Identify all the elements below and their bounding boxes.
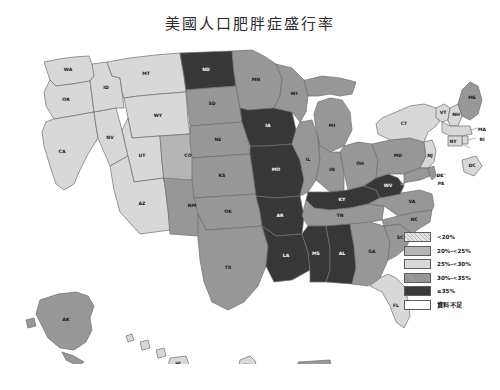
legend-swatch-25-30 — [404, 259, 431, 269]
legend-swatch-30-35 — [404, 273, 431, 283]
legend-label-25-30: 25%-<30% — [437, 261, 471, 267]
state-HI[interactable] — [126, 334, 190, 364]
legend-swatch-lt20 — [404, 232, 431, 242]
state-label-AL: AL — [339, 251, 346, 256]
legend-item-ge35[interactable]: ≥35% — [404, 285, 498, 297]
state-PR[interactable] — [298, 360, 332, 364]
state-label-PA: MD — [394, 153, 403, 158]
state-label-HI: HI — [175, 361, 181, 364]
state-label-RI: RI — [479, 137, 485, 142]
state-label-DE: PA — [438, 181, 445, 186]
state-label-OK: OK — [224, 209, 232, 214]
state-label-AK: AK — [62, 317, 70, 322]
state-label-NJ: NJ — [427, 153, 433, 158]
state-label-CO: CO — [184, 153, 191, 158]
state-label-LA: LA — [283, 253, 290, 258]
legend-item-30-35[interactable]: 30%-<35% — [404, 272, 498, 284]
state-label-SC: SC — [397, 235, 404, 240]
state-label-KY: KY — [339, 197, 347, 202]
state-label-SD: SD — [208, 101, 215, 106]
states-layer — [26, 50, 482, 364]
state-label-WA: WA — [64, 67, 73, 72]
state-label-NC: NC — [410, 217, 418, 222]
state-CA[interactable] — [42, 112, 98, 190]
state-label-MA: MA — [478, 127, 487, 132]
legend-label-ge35: ≥35% — [437, 288, 455, 294]
legend-label-20-25: 20%-<25% — [437, 248, 471, 254]
state-label-NM: NM — [188, 203, 197, 208]
state-label-AZ: AZ — [139, 201, 147, 206]
state-label-MN: MN — [252, 77, 261, 82]
state-label-TN: TN — [337, 213, 344, 218]
state-NY[interactable] — [376, 104, 442, 142]
state-label-AR: AR — [276, 213, 284, 218]
state-label-OR: OR — [62, 97, 70, 102]
legend-swatch-20-25 — [404, 246, 431, 256]
state-label-DC: DC — [468, 163, 476, 168]
legend-item-nodata[interactable]: 資料不足 — [404, 299, 498, 311]
state-label-GU: GU — [243, 363, 251, 364]
legend-item-lt20[interactable]: <20% — [404, 231, 498, 243]
legend-item-20-25[interactable]: 20%-<25% — [404, 245, 498, 257]
state-label-UT: UT — [139, 153, 147, 158]
legend-swatch-ge35 — [404, 286, 431, 296]
state-ME[interactable] — [458, 82, 482, 120]
state-label-GA: GA — [368, 249, 376, 254]
state-label-MO: MO — [272, 167, 281, 172]
obesity-map-page: 美國人口肥胖症盛行率 — [0, 0, 500, 390]
state-label-NY: CT — [401, 121, 408, 126]
state-label-WY: WY — [154, 113, 163, 118]
state-DE[interactable] — [428, 166, 436, 180]
state-label-WI: WI — [291, 91, 298, 96]
state-label-IL: IL — [306, 157, 311, 162]
state-label-MD: DE — [437, 173, 444, 178]
us-choropleth-map: WA OR CA NV ID MT WY UT AZ CO NM ND SD N… — [0, 34, 500, 364]
state-label-IA: IA — [265, 123, 271, 128]
state-label-VT: VT — [440, 110, 448, 115]
legend-item-25-30[interactable]: 25%-<30% — [404, 258, 498, 270]
legend-label-lt20: <20% — [437, 234, 455, 240]
state-label-MS: MS — [312, 251, 320, 256]
state-label-ID: ID — [103, 85, 109, 90]
state-label-CA: CA — [59, 149, 66, 154]
state-label-WV: WV — [384, 183, 393, 188]
state-AK[interactable] — [26, 292, 94, 364]
state-label-CT: NY — [449, 139, 457, 144]
map-legend: <20% 20%-<25% 25%-<30% 30%-<35% ≥35% 資料不… — [404, 231, 498, 312]
state-label-FL: FL — [393, 303, 399, 308]
state-label-IN: IN — [329, 167, 335, 172]
legend-swatch-nodata — [404, 300, 431, 310]
state-label-ME: ME — [468, 95, 476, 100]
state-label-ND: ND — [202, 67, 210, 72]
legend-label-30-35: 30%-<35% — [437, 275, 471, 281]
state-label-NH: NH — [452, 112, 460, 117]
state-label-MT: MT — [142, 71, 151, 76]
state-RI[interactable] — [462, 136, 468, 144]
state-label-MI: MI — [329, 123, 336, 128]
state-label-NE: NE — [215, 137, 222, 142]
state-label-TX: TX — [225, 265, 232, 270]
page-title: 美國人口肥胖症盛行率 — [0, 12, 500, 33]
state-label-KS: KS — [219, 173, 226, 178]
state-label-NV: NV — [106, 135, 114, 140]
state-label-OH: OH — [356, 161, 364, 166]
legend-label-nodata: 資料不足 — [437, 300, 462, 309]
state-label-VA: VA — [409, 199, 416, 204]
